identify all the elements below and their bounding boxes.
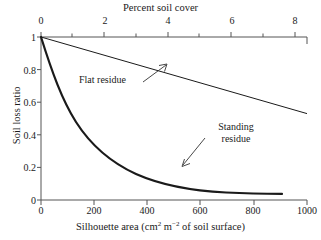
annotation-flat-residue: Flat residue	[79, 75, 126, 85]
annotation-standing-residue-line2: residue	[206, 134, 266, 144]
annotation-standing-residue-line1: Standing	[206, 122, 266, 132]
x-axis	[41, 200, 307, 205]
annotation-standing-residue: Standing residue	[206, 122, 266, 144]
series-standing-residue	[41, 37, 282, 194]
flat-residue-arrow	[143, 64, 167, 82]
top-axis	[41, 32, 307, 44]
standing-residue-arrow	[182, 138, 205, 167]
figure: Percent soil cover 0 2 4 6 8 1 0.8 0.6 0…	[0, 0, 321, 240]
y-axis	[37, 37, 41, 200]
plot-area	[0, 0, 321, 240]
